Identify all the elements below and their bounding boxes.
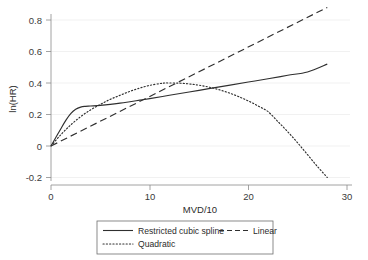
y-tick-label--0.2: -0.2 [26,172,42,183]
line-chart-canvas: 0.8 0.6 0.4 0.2 0 -0.2 ln(HR) 0 10 20 30… [0,0,368,260]
y-axis-title: ln(HR) [7,85,18,112]
x-tick-label-30: 30 [342,191,353,202]
x-tick-label-20: 20 [243,191,254,202]
y-tick-label-0.6: 0.6 [29,46,42,57]
legend-label-linear: Linear [253,226,277,236]
grid-lines [51,20,350,178]
x-tick-label-10: 10 [145,191,156,202]
legend-label-restricted-cubic-spline: Restricted cubic spline [138,226,224,236]
chart-legend: Restricted cubic spline Linear Quadratic [97,221,277,254]
y-tick-label-0: 0 [37,141,42,152]
y-axis: 0.8 0.6 0.4 0.2 0 -0.2 ln(HR) [7,14,51,183]
x-axis-title: MVD/10 [183,204,217,215]
x-tick-label-0: 0 [48,191,53,202]
chart-figure: 0.8 0.6 0.4 0.2 0 -0.2 ln(HR) 0 10 20 30… [0,0,368,260]
x-axis: 0 10 20 30 MVD/10 [48,185,352,215]
y-tick-label-0.2: 0.2 [29,109,42,120]
y-tick-label-0.8: 0.8 [29,15,42,26]
legend-label-quadratic: Quadratic [138,239,176,249]
series-linear [51,7,327,146]
y-tick-label-0.4: 0.4 [29,78,42,89]
series-quadratic [51,83,327,178]
data-series-group [51,7,327,177]
